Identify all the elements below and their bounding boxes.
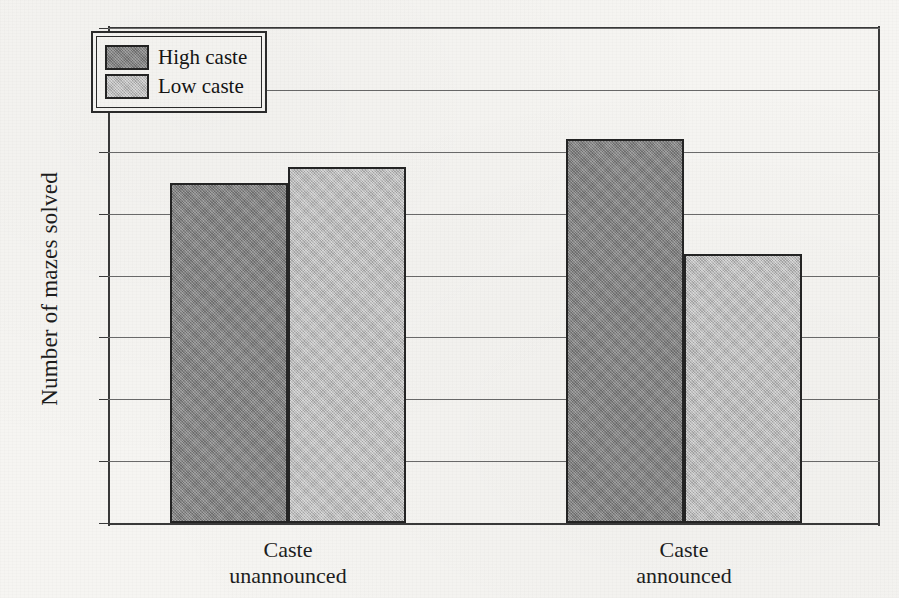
dark-gray-swatch — [105, 45, 149, 70]
tick-mark — [99, 276, 108, 277]
bar — [566, 139, 684, 523]
x-group-label: Casteunannounced — [130, 537, 446, 589]
light-gray-swatch — [105, 74, 149, 99]
tick-mark — [99, 461, 108, 462]
y-axis-title: Number of mazes solved — [37, 79, 63, 499]
tick-mark — [99, 28, 108, 29]
bar — [288, 167, 406, 523]
bar — [170, 183, 288, 523]
legend-inner: High casteLow caste — [96, 36, 262, 108]
x-group-label-line2: unannounced — [130, 563, 446, 589]
legend-item: Low caste — [105, 72, 253, 101]
legend-label: Low caste — [158, 76, 244, 97]
tick-mark — [99, 399, 108, 400]
bar — [684, 254, 802, 523]
bar-chart: Number of mazes solved 012345678 Casteun… — [0, 0, 899, 598]
x-group-label-line1: Caste — [660, 537, 709, 562]
legend: High casteLow caste — [91, 31, 267, 113]
gridline — [108, 28, 880, 29]
x-group-label-line1: Caste — [264, 537, 313, 562]
x-group-label: Casteannounced — [526, 537, 842, 589]
legend-label: High caste — [158, 47, 247, 68]
tick-mark — [99, 337, 108, 338]
x-group-label-line2: announced — [526, 563, 842, 589]
tick-mark — [99, 152, 108, 153]
tick-mark — [99, 523, 108, 524]
tick-mark — [99, 214, 108, 215]
legend-item: High caste — [105, 43, 253, 72]
gridline — [108, 152, 880, 153]
axis-line-x — [108, 523, 880, 525]
